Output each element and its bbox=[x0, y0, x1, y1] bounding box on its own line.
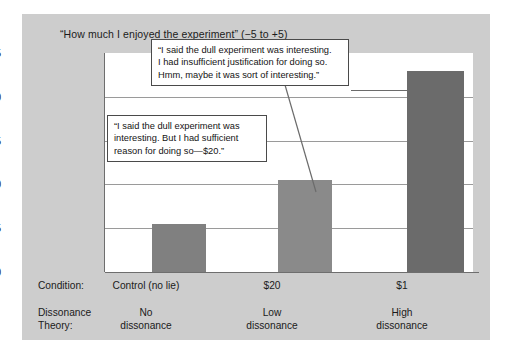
dissonance-value-control: No dissonance bbox=[96, 306, 196, 333]
condition-value-control: Control (no lie) bbox=[96, 279, 196, 292]
annotation-high-line-3: Hmm, maybe it was sort of interesting.” bbox=[158, 69, 342, 81]
condition-value-20: $20 bbox=[222, 279, 322, 292]
row-label-dissonance-line2: Theory: bbox=[38, 319, 91, 332]
y-tick-label-5: −0.5 bbox=[0, 222, 1, 234]
annotation-high-dissonance: “I said the dull experiment was interest… bbox=[151, 39, 349, 86]
annotation-low-line-3: reason for doing so—$20.” bbox=[114, 145, 260, 157]
y-tick-label-4: 0 bbox=[0, 178, 1, 190]
dissonance-control-line1: No bbox=[96, 306, 196, 319]
leader-line-low-dissonance bbox=[275, 78, 335, 198]
row-label-condition: Condition: bbox=[38, 279, 84, 292]
dissonance-control-line2: dissonance bbox=[96, 319, 196, 332]
condition-value-1: $1 bbox=[352, 279, 452, 292]
dissonance-value-1: High dissonance bbox=[352, 306, 452, 333]
y-tick-label-6: −1.0 bbox=[0, 266, 1, 278]
bar-1-dollar bbox=[407, 71, 464, 273]
y-tick-label-3: +0.5 bbox=[0, 135, 1, 147]
annotation-low-line-2: interesting. But I had sufficient bbox=[114, 132, 260, 144]
dissonance-20-line1: Low bbox=[222, 306, 322, 319]
dissonance-1-line1: High bbox=[352, 306, 452, 319]
annotation-low-dissonance: “I said the dull experiment was interest… bbox=[107, 115, 267, 162]
annotation-high-line-1: “I said the dull experiment was interest… bbox=[158, 44, 342, 56]
dissonance-20-line2: dissonance bbox=[222, 319, 322, 332]
row-label-dissonance-theory: Dissonance Theory: bbox=[38, 306, 91, 333]
annotation-low-line-1: “I said the dull experiment was bbox=[114, 120, 260, 132]
row-label-dissonance-line1: Dissonance bbox=[38, 306, 91, 319]
dissonance-value-20: Low dissonance bbox=[222, 306, 322, 333]
y-tick-label-2: +1.0 bbox=[0, 91, 1, 103]
y-tick-label-1: +1.5 bbox=[0, 47, 1, 59]
leader-line-high-dissonance bbox=[351, 90, 427, 91]
chart-figure: “How much I enjoyed the experiment” (−5 … bbox=[22, 14, 490, 340]
dissonance-1-line2: dissonance bbox=[352, 319, 452, 332]
bar-control-no-lie bbox=[152, 224, 206, 272]
annotation-high-line-2: I had insufficient justification for doi… bbox=[158, 56, 342, 68]
plot-area: +1.5 +1.0 +0.5 0 −0.5 −1.0 bbox=[104, 53, 473, 272]
